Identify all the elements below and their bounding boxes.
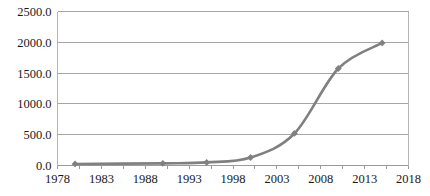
x-axis-tick-label: 2008: [308, 172, 333, 186]
data-point-marker: [203, 159, 210, 166]
data-point-marker: [72, 161, 79, 168]
data-point-marker: [247, 154, 254, 161]
x-axis-tick-label: 1993: [177, 172, 202, 186]
line-chart: 0.0500.01000.01500.02000.02500.019781983…: [0, 0, 430, 196]
x-axis-tick-label: 2003: [264, 172, 289, 186]
chart-canvas: 0.0500.01000.01500.02000.02500.019781983…: [0, 0, 430, 196]
x-axis-tick-label: 1998: [221, 172, 246, 186]
x-axis-tick-label: 1983: [89, 172, 114, 186]
y-axis-tick-label: 2500.0: [17, 5, 51, 19]
y-axis-tick-label: 500.0: [23, 128, 51, 142]
x-axis-tick-label: 1988: [133, 172, 158, 186]
x-axis-tick-label: 2018: [396, 172, 421, 186]
y-axis-tick-label: 1000.0: [17, 97, 51, 111]
y-axis-tick-label: 1500.0: [17, 67, 51, 81]
x-axis-tick-label: 1978: [45, 172, 70, 186]
y-axis-tick-label: 2000.0: [17, 36, 51, 50]
x-axis-tick-label: 2013: [352, 172, 377, 186]
